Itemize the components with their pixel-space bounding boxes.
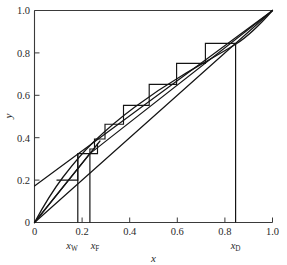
y-tick-label-0.8: 0.8 bbox=[17, 48, 30, 59]
xf-label: xF bbox=[90, 240, 100, 253]
y-tick-labels: 0 0.2 0.4 0.6 0.8 1.0 bbox=[17, 5, 31, 228]
rectifying-operating-line bbox=[90, 11, 273, 154]
y-tick-label-0: 0 bbox=[25, 217, 30, 228]
x-tick-label-1.0: 1.0 bbox=[266, 226, 279, 237]
plot-canvas: 0 0.2 0.4 0.6 0.8 1.0 0 0.2 0.4 0.6 0.8 … bbox=[0, 0, 287, 265]
xd-label: xD bbox=[230, 240, 241, 253]
y-tick-label-0.6: 0.6 bbox=[17, 90, 30, 101]
45-degree-diagonal-line bbox=[35, 11, 273, 223]
x-tick-label-0.8: 0.8 bbox=[218, 226, 231, 237]
x-axis-ticks bbox=[35, 218, 273, 223]
mccabe-thiele-figure: 0 0.2 0.4 0.6 0.8 1.0 0 0.2 0.4 0.6 0.8 … bbox=[0, 0, 287, 265]
x-tick-label-0.2: 0.2 bbox=[76, 226, 89, 237]
x-axis-title: x bbox=[150, 252, 156, 264]
xw-label: xW bbox=[65, 240, 78, 253]
x-tick-label-0.4: 0.4 bbox=[123, 226, 137, 237]
stepping-staircase bbox=[57, 43, 236, 180]
x-tick-labels: 0 0.2 0.4 0.6 0.8 1.0 bbox=[32, 226, 279, 237]
y-axis-title: y bbox=[2, 113, 14, 119]
y-tick-label-0.4: 0.4 bbox=[17, 133, 31, 144]
y-tick-label-1.0: 1.0 bbox=[17, 5, 30, 16]
y-axis-ticks bbox=[35, 11, 40, 223]
x-tick-label-0.6: 0.6 bbox=[171, 226, 184, 237]
y-tick-label-0.2: 0.2 bbox=[17, 175, 30, 186]
x-tick-label-0: 0 bbox=[32, 226, 37, 237]
operating-line-extension bbox=[35, 11, 273, 187]
